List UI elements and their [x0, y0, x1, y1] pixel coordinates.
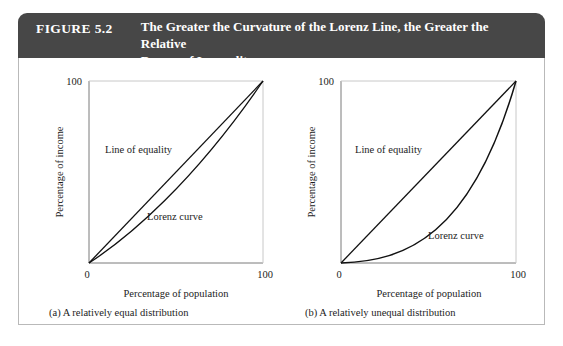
chart-a-label-lorenz-curve: Lorenz curve: [147, 211, 203, 222]
chart-a-xaxis-label: Percentage of population: [124, 288, 230, 299]
chart-b-ytick-max: 100: [318, 76, 334, 87]
chart-a-xtick-min: 0: [84, 269, 89, 280]
chart-b-label-line-of-equality: Line of equality: [355, 144, 423, 155]
chart-b-svg: 100 0 100 Percentage of population Perce…: [285, 31, 545, 326]
figure-header-bar: FIGURE 5.2 The Greater the Curvature of …: [18, 13, 545, 58]
chart-b-caption: (b) A relatively unequal distribution: [305, 307, 455, 318]
chart-a-line-of-equality: [89, 81, 263, 263]
chart-b-label-lorenz-curve: Lorenz curve: [428, 230, 484, 241]
chart-a-label-line-of-equality: Line of equality: [105, 144, 173, 155]
figure-body-frame: 100 0 100 Percentage of population Perce…: [18, 30, 545, 325]
chart-b-xtick-max: 100: [510, 269, 526, 280]
figure-title-line-2: Degree of Inequality: [141, 52, 531, 58]
chart-a-caption: (a) A relatively equal distribution: [49, 307, 188, 318]
chart-b-yaxis-label: Percentage of income: [306, 126, 317, 217]
figure-title-line-1: The Greater the Curvature of the Lorenz …: [141, 18, 531, 52]
chart-a-yaxis-label: Percentage of income: [54, 126, 65, 217]
chart-b-xaxis-label: Percentage of population: [377, 288, 483, 299]
figure-root: 100 0 100 Percentage of population Perce…: [0, 0, 563, 346]
chart-a-xtick-max: 100: [257, 269, 273, 280]
panel-b: 100 0 100 Percentage of population Perce…: [285, 31, 545, 326]
figure-title: The Greater the Curvature of the Lorenz …: [141, 18, 531, 58]
figure-header-inner: FIGURE 5.2 The Greater the Curvature of …: [18, 13, 545, 58]
figure-number-label: FIGURE 5.2: [36, 18, 113, 37]
chart-a-svg: 100 0 100 Percentage of population Perce…: [25, 31, 285, 326]
chart-a-ytick-max: 100: [66, 76, 82, 87]
panel-a: 100 0 100 Percentage of population Perce…: [25, 31, 285, 326]
panels-container: 100 0 100 Percentage of population Perce…: [19, 31, 546, 326]
chart-b-xtick-min: 0: [336, 269, 341, 280]
